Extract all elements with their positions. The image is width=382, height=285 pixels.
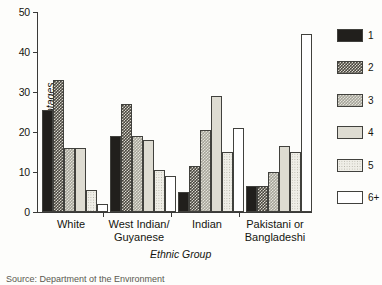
legend-swatch bbox=[337, 191, 363, 204]
legend-label: 3 bbox=[368, 95, 374, 106]
bar bbox=[154, 170, 165, 212]
x-axis-title: Ethnic Group bbox=[150, 248, 211, 260]
y-tick-mark bbox=[33, 212, 37, 213]
bar bbox=[246, 186, 257, 212]
legend-label: 1 bbox=[368, 30, 374, 41]
bar bbox=[75, 148, 86, 212]
legend-swatch bbox=[337, 94, 363, 107]
bar-group bbox=[110, 12, 176, 212]
legend-item[interactable]: 1 bbox=[337, 24, 382, 46]
bar bbox=[189, 166, 200, 212]
y-tick-label: 10 bbox=[19, 166, 30, 178]
bar-group bbox=[178, 12, 244, 212]
clipped-source-strip: Source: Department of the Environment bbox=[0, 276, 382, 285]
plot-area bbox=[38, 12, 312, 212]
bar bbox=[165, 176, 176, 212]
y-tick-label: 50 bbox=[19, 6, 30, 18]
bar bbox=[200, 130, 211, 212]
legend-swatch bbox=[337, 61, 363, 74]
legend-item[interactable]: 6+ bbox=[337, 187, 382, 209]
bar bbox=[143, 140, 154, 212]
y-tick-mark bbox=[33, 52, 37, 53]
bar bbox=[132, 136, 143, 212]
bar bbox=[178, 192, 189, 212]
y-tick-label: 40 bbox=[19, 46, 30, 58]
legend-label: 4 bbox=[368, 127, 374, 138]
bar bbox=[97, 204, 108, 212]
bar-group bbox=[246, 12, 312, 212]
bar bbox=[222, 152, 233, 212]
group-label: Pakistani orBangladeshi bbox=[235, 218, 315, 243]
legend-item[interactable]: 2 bbox=[337, 57, 382, 79]
legend-item[interactable]: 4 bbox=[337, 122, 382, 144]
bar bbox=[233, 128, 244, 212]
y-tick-mark bbox=[33, 92, 37, 93]
legend-swatch bbox=[337, 159, 363, 172]
group-label-line: Bangladeshi bbox=[235, 231, 315, 244]
y-tick-mark bbox=[33, 12, 37, 13]
y-tick-label: 30 bbox=[19, 86, 30, 98]
bar-chart: Percentages 50403020100 WhiteWest Indian… bbox=[37, 12, 312, 212]
legend-item[interactable]: 3 bbox=[337, 89, 382, 111]
bar bbox=[121, 104, 132, 212]
group-label-line: Guyanese bbox=[99, 231, 179, 244]
y-tick-mark bbox=[33, 172, 37, 173]
legend-item[interactable]: 5 bbox=[337, 154, 382, 176]
chart-legend: 123456+ bbox=[337, 24, 382, 219]
group-label-line: Pakistani or bbox=[235, 218, 315, 231]
legend-swatch bbox=[337, 29, 363, 42]
bar bbox=[268, 172, 279, 212]
bar bbox=[64, 148, 75, 212]
x-axis-line bbox=[37, 212, 312, 213]
source-caption: Source: Department of the Environment bbox=[6, 276, 165, 284]
bar bbox=[301, 34, 312, 212]
bar bbox=[53, 80, 64, 212]
y-tick-label: 20 bbox=[19, 126, 30, 138]
legend-label: 6+ bbox=[368, 192, 379, 203]
legend-label: 5 bbox=[368, 160, 374, 171]
bar bbox=[290, 152, 301, 212]
legend-swatch bbox=[337, 126, 363, 139]
bar bbox=[110, 136, 121, 212]
y-tick-label: 0 bbox=[24, 206, 30, 218]
y-tick-mark bbox=[33, 132, 37, 133]
group-separator-tick bbox=[239, 212, 240, 217]
bar bbox=[257, 186, 268, 212]
bar bbox=[211, 96, 222, 212]
group-separator-tick bbox=[171, 212, 172, 217]
legend-label: 2 bbox=[368, 62, 374, 73]
bar-group bbox=[42, 12, 108, 212]
group-separator-tick bbox=[103, 212, 104, 217]
bar bbox=[86, 190, 97, 212]
bar bbox=[42, 110, 53, 212]
bar bbox=[279, 146, 290, 212]
